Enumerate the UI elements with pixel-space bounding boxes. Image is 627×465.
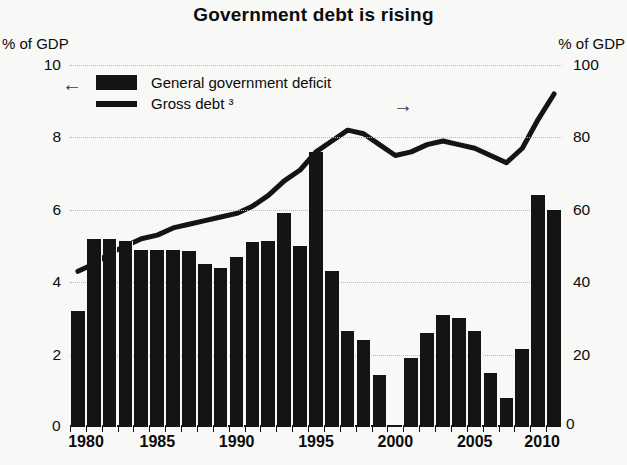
x-axis-tick-label: 2005 (457, 433, 493, 451)
legend-item-gross-debt: Gross debt ³ (96, 93, 331, 114)
y2-axis-tick-label: 60 (573, 202, 590, 218)
x-axis-tick-mark (260, 427, 261, 432)
bar (87, 239, 102, 427)
x-axis-tick-mark (133, 427, 134, 432)
bar (166, 250, 181, 427)
x-axis-tick-label: 2010 (524, 433, 560, 451)
bar (484, 373, 499, 427)
y-axis-tick-label: 4 (52, 274, 61, 290)
legend-label-gross-debt: Gross debt ³ (151, 95, 234, 112)
x-axis-tick-label: 1990 (219, 433, 255, 451)
x-axis-tick-mark (546, 427, 547, 432)
x-axis-tick-mark (530, 427, 531, 432)
bar (468, 331, 483, 427)
bar (309, 152, 324, 427)
right-axis-unit-label: % of GDP (558, 35, 625, 52)
bar (373, 375, 388, 427)
x-axis-tick-mark (308, 427, 309, 432)
x-axis-tick-mark (118, 427, 119, 432)
x-axis-tick-mark (467, 427, 468, 432)
x-axis-tick-mark (86, 427, 87, 432)
legend-bar-swatch-icon (96, 75, 137, 90)
bar (436, 315, 451, 427)
bar (182, 251, 197, 427)
x-axis-tick-mark (165, 427, 166, 432)
y-axis-tick-label: 6 (52, 202, 61, 218)
legend-line-swatch-icon (96, 101, 137, 107)
bar (261, 241, 276, 427)
bar (547, 210, 562, 427)
bar (214, 268, 229, 427)
chart-title: Government debt is rising (0, 4, 627, 26)
x-axis-tick-mark (229, 427, 230, 432)
x-axis-tick-mark (181, 427, 182, 432)
bar (103, 239, 118, 427)
bar (357, 340, 372, 427)
x-axis-tick-mark (70, 427, 71, 432)
x-axis-tick-mark (403, 427, 404, 432)
y2-axis-tick-label: 80 (573, 129, 590, 145)
x-axis-tick-mark (324, 427, 325, 432)
y-axis-tick-label: 8 (52, 129, 61, 145)
legend-item-deficit: General government deficit (96, 72, 331, 93)
arrow-left-icon: ← (62, 74, 82, 94)
y2-axis-tick-label: 100 (573, 57, 599, 73)
x-axis-tick-mark (483, 427, 484, 432)
x-axis-tick-mark (292, 427, 293, 432)
bar (293, 246, 308, 427)
x-axis-tick-mark (102, 427, 103, 432)
x-axis-tick-mark (276, 427, 277, 432)
bar (134, 250, 149, 427)
x-axis-tick-mark (419, 427, 420, 432)
plot-area: 2468102040608010019801985199019952000200… (70, 65, 562, 427)
bar (515, 349, 530, 427)
x-axis-tick-mark (435, 427, 436, 432)
bar (420, 333, 435, 427)
bar (388, 425, 403, 427)
left-axis-unit-label: % of GDP (2, 35, 69, 52)
bar (341, 331, 356, 427)
x-axis-tick-label: 2000 (378, 433, 414, 451)
x-axis-tick-mark (499, 427, 500, 432)
x-axis-tick-mark (213, 427, 214, 432)
bar (531, 195, 546, 427)
bar (452, 318, 467, 427)
x-axis-tick-mark (245, 427, 246, 432)
legend-label-deficit: General government deficit (151, 74, 331, 91)
x-axis-tick-label: 1980 (68, 433, 104, 451)
x-axis-tick-mark (372, 427, 373, 432)
arrow-right-icon: → (393, 95, 413, 115)
y2-axis-tick-label: 40 (573, 274, 590, 290)
right-axis-zero-label: 0 (566, 415, 575, 433)
x-axis-tick-mark (340, 427, 341, 432)
bar (198, 264, 213, 427)
x-axis-tick-mark (356, 427, 357, 432)
x-axis-tick-mark (149, 427, 150, 432)
gridline (70, 137, 562, 138)
bar (230, 257, 245, 427)
left-axis-zero-label: 0 (52, 417, 61, 435)
x-axis-tick-mark (451, 427, 452, 432)
bar (150, 250, 165, 427)
y-axis-tick-label: 10 (44, 57, 61, 73)
x-axis-tick-label: 1995 (298, 433, 334, 451)
chart-legend: General government deficit Gross debt ³ (96, 72, 331, 114)
bar (404, 358, 419, 427)
y2-axis-tick-label: 20 (573, 347, 590, 363)
gridline (70, 65, 562, 66)
bar (246, 242, 261, 427)
bar (500, 398, 515, 427)
x-axis-tick-label: 1985 (139, 433, 175, 451)
x-axis-tick-mark (514, 427, 515, 432)
y-axis-tick-label: 2 (52, 347, 61, 363)
x-axis-tick-mark (197, 427, 198, 432)
x-axis-tick-mark (387, 427, 388, 432)
bar (119, 241, 134, 427)
bar (71, 311, 86, 427)
chart-root: Government debt is rising % of GDP % of … (0, 0, 627, 465)
bar (325, 271, 340, 427)
bar (277, 213, 292, 427)
